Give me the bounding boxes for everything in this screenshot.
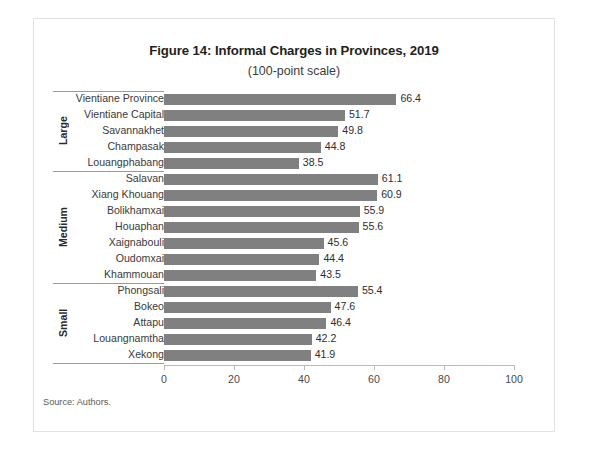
bar-chart-plot-area: LargeVientiane Province66.4Vientiane Cap… [34, 91, 556, 381]
bar [164, 270, 316, 281]
source-note: Source: Authors. [43, 397, 111, 407]
x-axis-tick [304, 365, 305, 370]
bar-value-label: 49.8 [342, 123, 363, 138]
bar-group-small: SmallPhongsali55.4Bokeo47.6Attapu46.4Lou… [34, 283, 556, 363]
bar-row: Oudomxai44.4 [34, 251, 556, 267]
bar-value-label: 47.6 [335, 299, 356, 314]
bar [164, 254, 319, 265]
bar-value-label: 60.9 [381, 187, 402, 202]
category-label: Houaphan [44, 219, 164, 234]
bar [164, 142, 321, 153]
bar [164, 238, 324, 249]
bar [164, 350, 311, 361]
category-label: Oudomxai [44, 251, 164, 266]
bar-value-label: 55.4 [362, 283, 383, 298]
category-label: Champasak [44, 139, 164, 154]
bar-row: Khammouan43.5 [34, 267, 556, 283]
x-axis-tick [234, 365, 235, 370]
bar [164, 158, 299, 169]
bar-row: Attapu46.4 [34, 315, 556, 331]
category-label: Phongsali [44, 283, 164, 298]
bar-group-medium: MediumSalavan61.1Xiang Khouang60.9Bolikh… [34, 171, 556, 283]
bar [164, 334, 312, 345]
category-label: Savannakhet [44, 123, 164, 138]
bar-value-label: 46.4 [330, 315, 351, 330]
x-axis-tick-label: 40 [284, 373, 324, 385]
bar [164, 206, 360, 217]
bar-value-label: 43.5 [320, 267, 341, 282]
bar [164, 318, 326, 329]
category-label: Louangnamtha [44, 331, 164, 346]
bar-row: Phongsali55.4 [34, 283, 556, 299]
bar-value-label: 44.8 [325, 139, 346, 154]
bar-value-label: 66.4 [400, 91, 421, 106]
bar [164, 110, 345, 121]
bar-value-label: 45.6 [328, 235, 349, 250]
x-axis-tick-label: 80 [424, 373, 464, 385]
category-label: Xaignabouli [44, 235, 164, 250]
group-separator [53, 363, 164, 364]
bar-row: Bokeo47.6 [34, 299, 556, 315]
bar-value-label: 44.4 [323, 251, 344, 266]
bar-value-label: 55.6 [363, 219, 384, 234]
bar-row: Xiang Khouang60.9 [34, 187, 556, 203]
category-label: Bolikhamxai [44, 203, 164, 218]
category-label: Bokeo [44, 299, 164, 314]
bar [164, 222, 359, 233]
bar-value-label: 61.1 [382, 171, 403, 186]
category-label: Louangphabang [44, 155, 164, 170]
bar-row: Champasak44.8 [34, 139, 556, 155]
bar [164, 190, 377, 201]
bar-row: Louangphabang38.5 [34, 155, 556, 171]
category-label: Xiang Khouang [44, 187, 164, 202]
bar-row: Bolikhamxai55.9 [34, 203, 556, 219]
bar-row: Vientiane Capital51.7 [34, 107, 556, 123]
bar [164, 302, 331, 313]
bar-value-label: 51.7 [349, 107, 370, 122]
bar [164, 94, 396, 105]
x-axis-tick [164, 365, 165, 370]
bar [164, 126, 338, 137]
bar-row: Louangnamtha42.2 [34, 331, 556, 347]
x-axis-tick-label: 20 [214, 373, 254, 385]
bar [164, 286, 358, 297]
category-label: Vientiane Capital [44, 107, 164, 122]
x-axis-tick [374, 365, 375, 370]
bar [164, 174, 378, 185]
x-axis-tick-label: 0 [144, 373, 184, 385]
bar-row: Xekong41.9 [34, 347, 556, 363]
bar-value-label: 41.9 [315, 347, 336, 362]
bar-row: Houaphan55.6 [34, 219, 556, 235]
category-label: Khammouan [44, 267, 164, 282]
x-axis-tick-label: 60 [354, 373, 394, 385]
bar-row: Xaignabouli45.6 [34, 235, 556, 251]
x-axis-tick [444, 365, 445, 370]
bar-row: Savannakhet49.8 [34, 123, 556, 139]
bar-group-large: LargeVientiane Province66.4Vientiane Cap… [34, 91, 556, 171]
category-label: Xekong [44, 347, 164, 362]
bar-value-label: 38.5 [303, 155, 324, 170]
category-label: Vientiane Province [44, 91, 164, 106]
bar-row: Vientiane Province66.4 [34, 91, 556, 107]
x-axis-line [164, 365, 514, 366]
bar-value-label: 42.2 [316, 331, 337, 346]
x-axis-tick-label: 100 [494, 373, 534, 385]
figure-container: Figure 14: Informal Charges in Provinces… [33, 18, 555, 432]
category-label: Salavan [44, 171, 164, 186]
bar-value-label: 55.9 [364, 203, 385, 218]
category-label: Attapu [44, 315, 164, 330]
x-axis-tick [514, 365, 515, 370]
chart-subtitle: (100-point scale) [34, 64, 554, 78]
bar-row: Salavan61.1 [34, 171, 556, 187]
chart-title: Figure 14: Informal Charges in Provinces… [34, 43, 554, 58]
